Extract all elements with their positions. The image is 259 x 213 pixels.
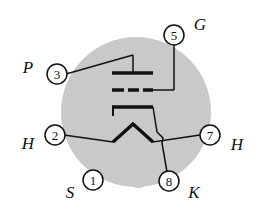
pin-label: K — [187, 183, 201, 202]
pin-number: 2 — [52, 128, 59, 143]
pin-2-heater: 2 H — [21, 125, 65, 153]
pin-number: 3 — [54, 67, 61, 82]
pin-label: H — [21, 134, 36, 153]
pin-number: 5 — [171, 28, 178, 43]
pin-number: 1 — [90, 173, 97, 188]
pin-label: H — [230, 135, 245, 154]
pin-label: G — [194, 15, 206, 34]
base-key-tab — [131, 170, 146, 188]
pin-label: P — [22, 58, 33, 77]
tube-base-disc — [61, 37, 211, 187]
pin-number: 8 — [166, 174, 173, 189]
pin-7-heater: 7 H — [200, 125, 245, 154]
pin-label: S — [66, 183, 75, 202]
pin-8-cathode: 8 K — [159, 171, 201, 202]
pin-5-grid: 5 G — [164, 15, 206, 45]
pin-3-plate: 3 P — [22, 58, 67, 84]
pin-1-shield: 1 S — [66, 170, 103, 202]
pin-number: 7 — [207, 128, 214, 143]
tube-pinout-diagram: 3 P 5 G 2 H 7 H 1 S 8 K — [0, 0, 259, 213]
